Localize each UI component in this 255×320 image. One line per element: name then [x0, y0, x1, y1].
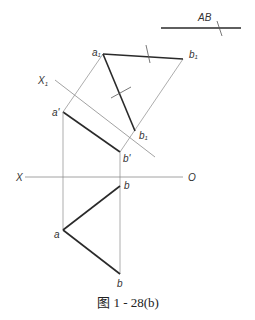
figure-canvas: AB X1 X O a1 b1 b1 a' b' b a b: [0, 0, 255, 320]
true-length-label: AB: [197, 12, 212, 23]
segment-a1-b1-lower: [103, 54, 135, 131]
projector-b1-bprime: [120, 59, 183, 152]
segment-a-b-lower: [63, 230, 120, 274]
segment-aprime-bprime: [63, 112, 120, 152]
label-b-lower: b: [117, 278, 123, 289]
label-a1: a1: [92, 47, 101, 58]
axis-x-label: X: [15, 172, 23, 183]
projector-a1-aprime: [63, 54, 103, 112]
label-b1-lower: b1: [139, 130, 148, 141]
projection-diagram: AB X1 X O a1 b1 b1 a' b' b a b: [0, 0, 255, 320]
label-b-upper: b: [124, 180, 130, 191]
axis-x1-label: X1: [37, 75, 48, 87]
figure-caption: 图 1 - 28(b): [97, 295, 159, 310]
label-a: a: [54, 229, 60, 240]
auxiliary-axis-x1: [55, 80, 155, 157]
label-b-prime: b': [123, 153, 132, 164]
label-b1-upper: b1: [189, 49, 198, 60]
axis-o-label: O: [188, 172, 196, 183]
segment-a-b-upper: [63, 186, 120, 230]
tick-a1-b1: [146, 45, 150, 63]
segment-a1-b1: [103, 54, 183, 59]
label-a-prime: a': [52, 107, 61, 118]
